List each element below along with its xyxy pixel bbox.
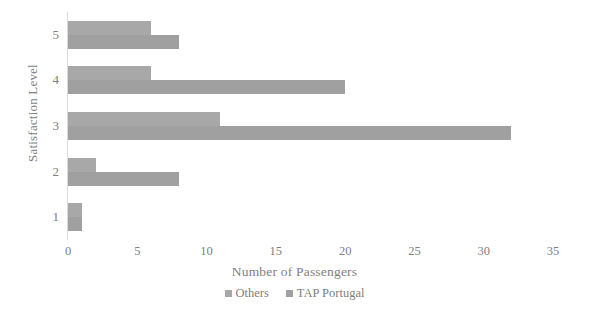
bar-others-level-3 — [68, 112, 220, 126]
bar-tap-portugal-level-3 — [68, 126, 511, 140]
plot-area: 54321 — [68, 12, 553, 240]
bar-tap-portugal-level-4 — [68, 80, 345, 94]
x-tick-label-0: 0 — [65, 244, 71, 259]
legend-label: Others — [236, 287, 269, 300]
chart-legend: OthersTAP Portugal — [0, 287, 589, 300]
bar-tap-portugal-level-5 — [68, 35, 179, 49]
bar-tap-portugal-level-1 — [68, 217, 82, 231]
y-tick-label-1: 1 — [29, 210, 59, 223]
x-axis-tick-labels: 05101520253035 — [68, 244, 553, 262]
x-tick-label-15: 15 — [270, 244, 283, 259]
bar-chart: Satisfaction Level 54321 05101520253035 … — [0, 0, 589, 321]
legend-label: TAP Portugal — [297, 287, 365, 300]
legend-swatch-icon — [286, 290, 293, 297]
bar-tap-portugal-level-2 — [68, 172, 179, 186]
bar-group-level-2: 2 — [68, 149, 553, 195]
bar-others-level-2 — [68, 158, 96, 172]
x-tick-label-25: 25 — [408, 244, 421, 259]
legend-swatch-icon — [225, 290, 232, 297]
x-tick-label-35: 35 — [547, 244, 560, 259]
bar-others-level-4 — [68, 66, 151, 80]
y-tick-label-3: 3 — [29, 119, 59, 132]
x-tick-label-20: 20 — [339, 244, 352, 259]
bar-group-level-3: 3 — [68, 103, 553, 149]
y-tick-label-5: 5 — [29, 28, 59, 41]
x-tick-label-10: 10 — [200, 244, 213, 259]
y-tick-label-4: 4 — [29, 73, 59, 86]
y-tick-label-2: 2 — [29, 165, 59, 178]
bar-group-level-1: 1 — [68, 194, 553, 240]
bar-group-level-4: 4 — [68, 58, 553, 104]
legend-item-tap-portugal[interactable]: TAP Portugal — [286, 287, 365, 300]
x-axis-title: Number of Passengers — [0, 264, 589, 280]
bar-group-level-5: 5 — [68, 12, 553, 58]
x-tick-label-5: 5 — [134, 244, 140, 259]
legend-item-others[interactable]: Others — [225, 287, 269, 300]
x-tick-label-30: 30 — [477, 244, 490, 259]
bar-others-level-5 — [68, 21, 151, 35]
bar-others-level-1 — [68, 203, 82, 217]
